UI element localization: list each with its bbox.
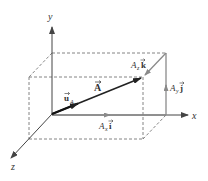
svg-text:A: A bbox=[98, 121, 105, 131]
svg-text:y: y bbox=[175, 88, 179, 94]
svg-text:z: z bbox=[136, 65, 140, 71]
component-vectors bbox=[52, 53, 166, 115]
label-vector-a: A bbox=[94, 81, 102, 94]
az-k-vector bbox=[145, 53, 166, 75]
x-axis-label: x bbox=[191, 110, 197, 121]
label-az-k: A z k bbox=[130, 59, 146, 71]
svg-text:A: A bbox=[94, 82, 102, 93]
label-ax-i: A x i bbox=[98, 120, 113, 132]
y-axis-label: y bbox=[47, 11, 53, 22]
svg-text:A: A bbox=[169, 83, 176, 93]
vector-diagram: y x z A u A A x i A y j A z k bbox=[0, 0, 208, 181]
svg-text:A: A bbox=[130, 60, 137, 70]
svg-text:A: A bbox=[69, 99, 74, 105]
svg-text:k: k bbox=[141, 60, 146, 70]
unit-vector-ua bbox=[52, 104, 78, 115]
svg-text:i: i bbox=[109, 121, 112, 131]
z-axis bbox=[11, 114, 52, 158]
z-axis-label: z bbox=[10, 161, 15, 172]
svg-text:x: x bbox=[104, 126, 108, 132]
svg-text:j: j bbox=[179, 83, 183, 93]
label-ay-j: A y j bbox=[169, 82, 184, 94]
label-unit-vector-ua: u A bbox=[64, 92, 74, 105]
